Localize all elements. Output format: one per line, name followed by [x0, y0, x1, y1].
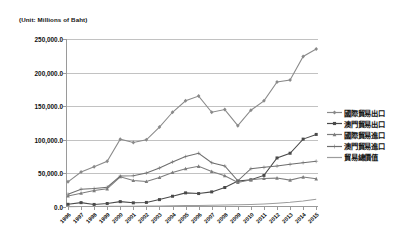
x-axis-tick-label: 2012: [268, 211, 281, 224]
x-axis-tick-mark: [264, 207, 265, 210]
y-axis-tick-label: 0.0: [54, 204, 63, 211]
x-axis-tick-label: 2004: [163, 211, 176, 224]
x-axis-tick-mark: [159, 207, 160, 210]
data-point-marker: [158, 166, 162, 170]
chart-unit-title: (Unit: Millions of Baht): [19, 16, 87, 23]
legend-swatch-icon: [327, 142, 342, 151]
legend-swatch-icon: [327, 108, 342, 117]
data-point-marker: [67, 203, 70, 206]
chart-legend: 國際貿易出口澳門貿易出口國際貿易進口澳門貿易進口貿易總價值: [327, 108, 413, 162]
data-point-marker: [145, 201, 148, 204]
legend-swatch-icon: [327, 119, 342, 128]
legend-label: 貿易總價值: [344, 152, 378, 162]
x-axis-tick-label: 2003: [150, 211, 163, 224]
x-axis-tick-label: 2013: [281, 211, 294, 224]
data-point-marker: [158, 198, 161, 201]
data-point-marker: [289, 152, 292, 155]
series-layer: [66, 39, 318, 207]
data-point-marker: [314, 159, 318, 163]
x-axis-tick-mark: [316, 207, 317, 210]
x-axis-tick-mark: [277, 207, 278, 210]
data-point-marker: [171, 195, 174, 198]
legend-label: 國際貿易進口: [344, 130, 385, 140]
data-point-marker: [93, 203, 96, 206]
data-point-marker: [184, 155, 188, 159]
data-point-marker: [79, 187, 83, 191]
x-axis-tick-mark: [173, 207, 174, 210]
series-group: [68, 199, 316, 206]
x-axis-tick-mark: [199, 207, 200, 210]
x-axis-tick-label: 1996: [59, 211, 72, 224]
x-axis-tick-label: 2007: [203, 211, 216, 224]
x-axis-tick-mark: [251, 207, 252, 210]
legend-swatch-icon: [327, 130, 342, 139]
data-point-marker: [210, 190, 213, 193]
x-axis-tick-label: 2014: [294, 211, 307, 224]
data-point-marker: [275, 164, 279, 168]
data-point-marker: [333, 144, 337, 148]
x-axis-tick-mark: [303, 207, 304, 210]
x-axis-tick-mark: [225, 207, 226, 210]
data-point-marker: [144, 171, 148, 175]
x-axis-tick-mark: [146, 207, 147, 210]
data-point-marker: [314, 47, 318, 51]
legend-item[interactable]: 澳門貿易進口: [327, 142, 413, 151]
x-axis-tick-mark: [186, 207, 187, 210]
x-axis-tick-label: 2006: [189, 211, 202, 224]
x-axis-tick-label: 2009: [229, 211, 242, 224]
data-point-marker: [315, 133, 318, 136]
y-axis-tick-label: 100,000.0: [35, 136, 63, 143]
data-point-marker: [333, 122, 336, 125]
legend-swatch-icon: [327, 153, 342, 162]
data-point-marker: [92, 165, 96, 169]
y-axis-tick-mark: [63, 207, 66, 208]
x-axis-tick-label: 2008: [216, 211, 229, 224]
data-point-marker: [301, 161, 305, 165]
data-point-marker: [80, 201, 83, 204]
data-point-marker: [276, 156, 279, 159]
data-point-marker: [184, 191, 187, 194]
x-axis-tick-label: 1997: [72, 211, 85, 224]
series-group: [66, 47, 318, 184]
series-line: [68, 153, 316, 194]
series-line: [68, 199, 316, 206]
legend-item[interactable]: 國際貿易進口: [327, 130, 413, 139]
x-axis-tick-mark: [68, 207, 69, 210]
series-line: [68, 166, 316, 196]
x-axis-tick-mark: [120, 207, 121, 210]
x-axis-tick-label: 2005: [176, 211, 189, 224]
x-axis-tick-mark: [290, 207, 291, 210]
x-axis-tick-mark: [81, 207, 82, 210]
legend-label: 國際貿易出口: [344, 108, 385, 118]
x-axis-tick-mark: [107, 207, 108, 210]
x-axis-tick-label: 2001: [124, 211, 137, 224]
data-point-marker: [131, 174, 135, 178]
legend-item[interactable]: 國際貿易出口: [327, 108, 413, 117]
legend-item[interactable]: 澳門貿易出口: [327, 119, 413, 128]
x-axis-tick-label: 1998: [85, 211, 98, 224]
data-point-marker: [262, 165, 266, 169]
legend-label: 澳門貿易進口: [344, 141, 385, 151]
y-axis-tick-label: 50,000.0: [38, 170, 63, 177]
y-axis: 250,000.0200,000.0150,000.0100,000.050,0…: [0, 39, 63, 207]
data-point-marker: [132, 140, 136, 144]
x-axis-tick-label: 1999: [98, 211, 111, 224]
legend-label: 澳門貿易出口: [344, 119, 385, 129]
data-point-marker: [132, 201, 135, 204]
data-point-marker: [333, 110, 337, 114]
chart-container: (Unit: Millions of Baht) 250,000.0200,00…: [0, 0, 413, 250]
series-line: [68, 134, 316, 204]
data-point-marker: [223, 186, 226, 189]
series-group: [66, 164, 318, 197]
legend-item[interactable]: 貿易總價值: [327, 153, 413, 162]
data-point-marker: [288, 162, 292, 166]
y-axis-tick-label: 150,000.0: [35, 103, 63, 110]
x-axis-tick-label: 2000: [111, 211, 124, 224]
x-axis-tick-mark: [133, 207, 134, 210]
data-point-marker: [302, 138, 305, 141]
x-axis-tick-label: 2011: [255, 212, 268, 225]
x-axis-tick-label: 2002: [137, 211, 150, 224]
data-point-marker: [171, 160, 175, 164]
y-axis-tick-label: 200,000.0: [35, 69, 63, 76]
series-group: [67, 133, 318, 206]
